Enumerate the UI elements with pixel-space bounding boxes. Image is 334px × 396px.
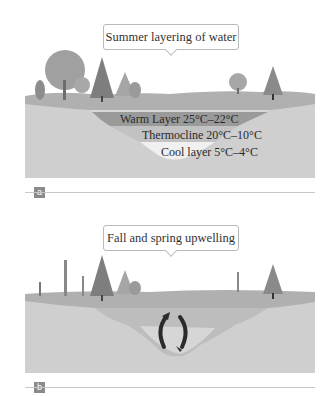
cool-layer-label: Cool layer 5°C–4°C <box>161 145 258 160</box>
panel-b-rule <box>25 387 315 388</box>
warm-layer-label: Warm Layer 25°C–22°C <box>120 112 239 127</box>
summer-title: Summer layering of water <box>106 30 237 44</box>
upwelling-title: Fall and spring upwelling <box>107 231 235 245</box>
panel-summer-layering: Summer layering of water Warm Layer 25°C… <box>0 0 334 200</box>
panel-a-rule <box>25 192 315 193</box>
upwelling-title-callout: Fall and spring upwelling <box>103 225 239 251</box>
thermocline-label: Thermocline 20°C–10°C <box>142 128 262 143</box>
summer-title-callout: Summer layering of water <box>103 24 239 50</box>
panel-upwelling: Fall and spring upwelling b <box>0 200 334 396</box>
